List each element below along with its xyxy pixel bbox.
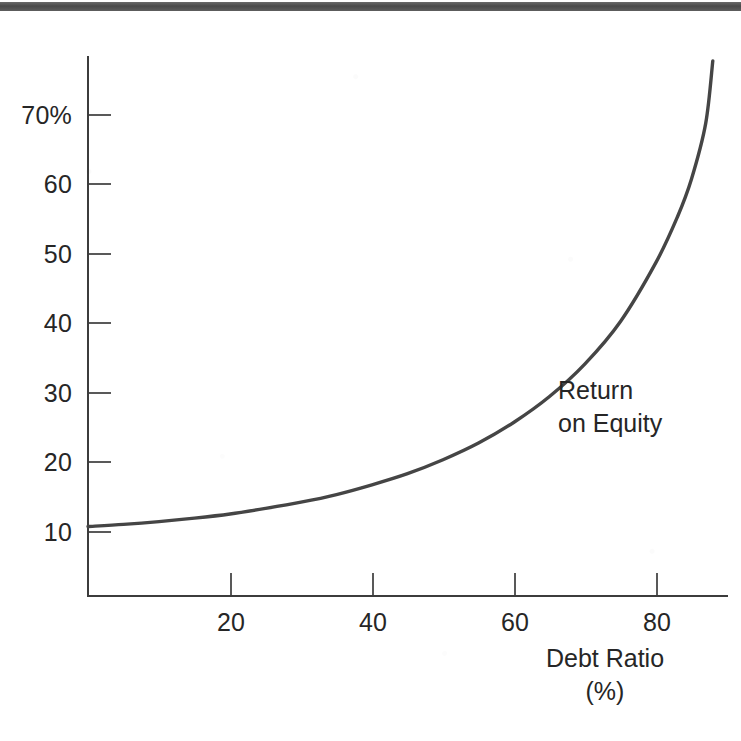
x-axis-title-line-2: (%): [546, 675, 664, 708]
y-tick-label-40: 40: [6, 309, 72, 338]
x-axis-title: Debt Ratio (%): [546, 642, 664, 707]
x-tick-marks: [231, 573, 657, 596]
y-tick-label-70: 70%: [6, 101, 72, 130]
y-tick-label-30: 30: [6, 379, 72, 408]
y-tick-label-20: 20: [6, 448, 72, 477]
x-tick-label-20: 20: [217, 608, 245, 637]
return-on-equity-chart: 70% 60 50 40 30 20 10 20 40 60 80 Return…: [0, 0, 741, 741]
y-tick-marks: [88, 115, 111, 532]
x-tick-label-60: 60: [501, 608, 529, 637]
y-tick-label-60: 60: [6, 170, 72, 199]
y-tick-label-10: 10: [6, 518, 72, 547]
return-on-equity-curve: [88, 61, 713, 527]
series-annotation-line-2: on Equity: [558, 407, 662, 440]
series-annotation-line-1: Return: [558, 374, 662, 407]
x-tick-label-40: 40: [359, 608, 387, 637]
y-tick-label-50: 50: [6, 240, 72, 269]
x-axis-title-line-1: Debt Ratio: [546, 642, 664, 675]
series-annotation: Return on Equity: [558, 374, 662, 440]
x-tick-label-80: 80: [643, 608, 671, 637]
